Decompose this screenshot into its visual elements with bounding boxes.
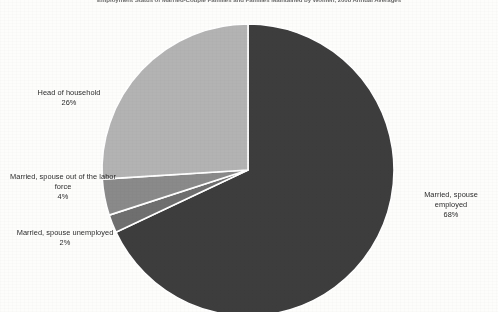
pie-chart-figure: Employment Status of Married-Couple Fami… bbox=[0, 0, 498, 312]
pie-label-head-of-household-name: Head of household bbox=[6, 88, 132, 98]
pie-label-spouse-out-of-labor-force: Married, spouse out of the labor force 4… bbox=[2, 172, 124, 203]
pie-label-spouse-unemployed-value: 2% bbox=[6, 238, 124, 248]
pie-label-head-of-household-value: 26% bbox=[6, 98, 132, 108]
pie-label-spouse-unemployed-name: Married, spouse unemployed bbox=[6, 228, 124, 238]
pie-label-spouse-out-of-labor-force-name: Married, spouse out of the labor force bbox=[2, 172, 124, 192]
pie-label-spouse-employed-value: 68% bbox=[408, 210, 494, 220]
pie-label-head-of-household: Head of household 26% bbox=[6, 88, 132, 108]
pie-chart-graphic bbox=[0, 0, 498, 312]
pie-label-spouse-unemployed: Married, spouse unemployed 2% bbox=[6, 228, 124, 248]
pie-svg bbox=[0, 0, 498, 312]
chart-title: Employment Status of Married-Couple Fami… bbox=[0, 0, 498, 4]
pie-label-spouse-out-of-labor-force-value: 4% bbox=[2, 192, 124, 202]
pie-label-spouse-employed-name: Married, spouse employed bbox=[408, 190, 494, 210]
pie-label-spouse-employed: Married, spouse employed 68% bbox=[408, 190, 494, 221]
pie-slices bbox=[102, 24, 394, 312]
